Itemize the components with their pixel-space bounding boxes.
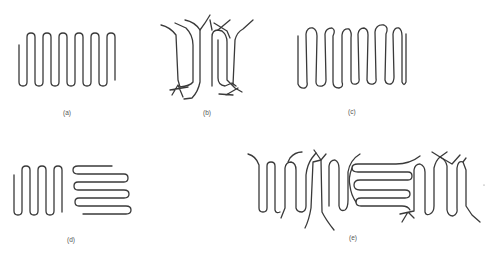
polymer-chain-folding-diagram: (a) (b) (c) (d) (e) xyxy=(0,0,490,259)
panel-e-left-chain-5 xyxy=(321,160,334,230)
panel-a: (a) xyxy=(19,33,115,117)
panel-b-chain-2 xyxy=(170,85,188,97)
panel-b-chain-5 xyxy=(212,30,242,92)
panel-e-horizontal-left-tail xyxy=(349,168,356,202)
panel-a-folded-chain xyxy=(19,33,115,86)
panel-a-label: (a) xyxy=(63,109,71,117)
panel-b xyxy=(161,15,253,99)
panel-e-left-chain-3 xyxy=(288,152,302,162)
panel-e-horizontal-folded-chain xyxy=(352,156,420,210)
panel-e-right-chain-1 xyxy=(400,157,466,222)
panel-e-left-chain-4 xyxy=(305,150,326,228)
panel-d-vertical-folded-chain xyxy=(14,166,62,215)
panel-e: (e) xyxy=(248,150,485,242)
panel-c: (c) xyxy=(298,25,406,116)
panel-b-label: (b) xyxy=(203,109,211,117)
panel-e-stray-dot xyxy=(483,184,484,185)
panel-b-chain-8 xyxy=(233,20,253,85)
panel-b-chain-6 xyxy=(214,20,230,38)
panel-c-folded-chain xyxy=(298,25,406,88)
panel-d: (d) xyxy=(14,166,131,244)
panel-c-label: (c) xyxy=(348,108,356,116)
panel-d-label: (d) xyxy=(67,236,75,244)
panel-e-right-chain-3 xyxy=(463,162,480,222)
panel-e-left-chain-1 xyxy=(248,154,280,213)
panel-e-label: (e) xyxy=(349,234,357,242)
panel-b-chain-1 xyxy=(161,23,193,87)
panel-b-chain-4 xyxy=(200,15,212,30)
panel-d-horizontal-folded-chain xyxy=(73,166,131,214)
